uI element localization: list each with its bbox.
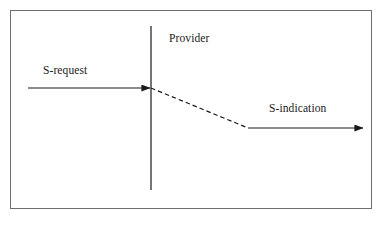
provider-internal-delay-line (151, 88, 248, 128)
s-indication-label: S-indication (269, 102, 326, 115)
diagram-screenshot: Provider S-request S-indication (0, 0, 384, 226)
s-request-label: S-request (43, 64, 87, 77)
provider-label: Provider (169, 32, 209, 45)
